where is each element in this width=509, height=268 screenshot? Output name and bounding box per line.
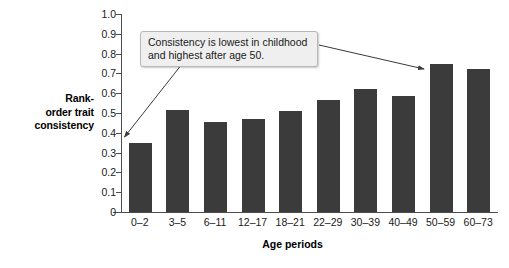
x-axis-line [113,212,498,213]
bar [317,100,340,212]
bar [354,89,377,212]
annotation-callout: Consistency is lowest in childhood and h… [140,31,318,67]
bar [204,122,227,212]
bar [279,111,302,212]
bar [129,143,152,212]
bar [467,69,490,212]
bar-chart-figure: Rank- order trait consistency 1.00.90.80… [0,0,509,268]
x-axis-tick-label: 60–73 [455,216,501,228]
annotation-line-2: and highest after age 50. [148,49,310,62]
bar [392,96,415,212]
bar [166,110,189,212]
bar [430,64,453,213]
bar [242,119,265,212]
x-axis-title: Age periods [0,238,509,250]
annotation-line-1: Consistency is lowest in childhood [148,36,310,49]
